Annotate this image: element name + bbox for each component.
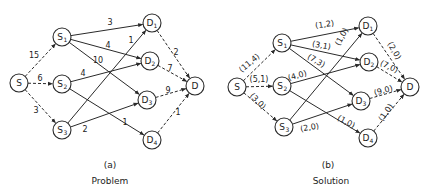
node-label: D [147,18,154,28]
edge-s-s1 [25,44,55,76]
node-label: D [363,133,370,143]
problem-caption: Problem [92,176,129,186]
edge-label-s2-d2: 4 [80,69,85,78]
problem-edge-labels: 1563341041122791 [29,18,181,134]
solution-panel: (11,4)(5,1)(3,0)(1,2)(3,1)(7,3)(4,0)(1,0… [228,17,419,186]
edge-s-s3 [25,90,56,123]
node-s2: S2 [273,77,291,95]
edge-label-s3-d3: 2 [82,125,87,134]
edge-label-s1-d1: 3 [107,18,112,27]
node-label: S [277,81,283,91]
edge-label-d3-d: 9 [165,86,170,95]
node-subscript: 4 [370,137,374,144]
edge-label-d2-d: (7,0) [379,59,400,75]
node-label: D [145,56,152,66]
edge-label-s-s1: 15 [29,51,39,60]
edge-label-d3-d: (9,0) [373,84,394,98]
node-subscript: 3 [149,99,153,106]
node-label: D [363,21,370,31]
node-label: D [147,135,154,145]
node-label: S [57,32,63,42]
node-d2: D2 [360,53,378,71]
node-d: D [186,77,204,95]
node-d2: D2 [141,52,159,70]
edge-d4-d [158,93,189,133]
node-s2: S2 [53,75,71,93]
edge-label-s3-d1: 1 [128,36,133,45]
edge-s2-d4 [70,89,144,135]
node-d: D [401,78,419,96]
edge-label-d4-d: 1 [175,108,180,117]
edge-label-s1-d3: (7,3) [306,52,327,69]
edge-s-s2 [246,86,273,87]
node-d1: D1 [143,14,161,32]
node-subscript: 2 [64,83,68,90]
node-s3: S3 [275,118,293,136]
node-subscript: 3 [64,129,68,136]
solution-tag: (b) [322,160,335,170]
node-subscript: 2 [284,85,288,92]
edge-label-s-s3: (3,0) [248,91,268,111]
edge-d3-d [156,89,186,98]
edge-label-s3-d1: (1,0) [333,26,350,47]
edge-label-s-s2: (5,1) [250,75,269,84]
node-label: S [57,125,63,135]
edge-label-d1-d: (2,0) [386,40,403,61]
node-subscript: 3 [363,100,367,107]
edge-label-d2-d: 7 [167,64,172,73]
node-d3: D3 [352,92,370,110]
node-d1: D1 [359,17,377,35]
edge-label-d4-d: (1,0) [377,102,395,123]
node-label: D [142,95,149,105]
node-subscript: 1 [154,22,158,29]
network-flow-diagram: 1563341041122791 SS1S2S3D1D2D3D4D (a) Pr… [0,0,429,196]
node-s1: S1 [273,34,291,52]
edge-label-s2-d4: 1 [122,118,127,127]
edge-label-s-s1: (11,4) [237,52,261,74]
problem-panel: 1563341041122791 SS1S2S3D1D2D3D4D (a) Pr… [10,14,204,186]
problem-tag: (a) [104,160,117,170]
node-label: S [16,78,22,88]
node-label: D [407,82,414,92]
node-s: S [228,78,246,96]
node-subscript: 2 [152,60,156,67]
node-label: S [277,38,283,48]
edge-label-s-s2: 6 [37,74,42,83]
node-s: S [10,74,28,92]
edge-label-s-s3: 3 [33,106,38,115]
node-label: S [234,82,240,92]
node-subscript: 1 [370,25,374,32]
node-d3: D3 [138,91,156,109]
node-subscript: 4 [154,139,158,146]
node-subscript: 3 [286,126,290,133]
edge-label-s1-d3: 10 [93,56,103,65]
node-label: D [192,81,199,91]
solution-caption: Solution [313,176,350,186]
edge-label-s1-d1: (1,2) [315,19,335,31]
node-s3: S3 [53,121,71,139]
node-label: S [279,122,285,132]
edge-label-s3-d3: (2,0) [299,121,319,133]
edge-label-s2-d4: (1,0) [336,113,357,130]
node-subscript: 2 [371,61,375,68]
node-label: D [356,96,363,106]
edge-s3-d3 [70,103,138,127]
node-s1: S1 [53,28,71,46]
edge-label-d1-d: 2 [173,48,178,57]
node-d4: D4 [359,129,377,147]
edge-label-s2-d2: (4,0) [287,69,308,83]
node-d4: D4 [143,131,161,149]
edge-label-s1-d2: 4 [105,41,110,50]
edge-s-s2 [28,83,53,84]
node-subscript: 1 [64,36,68,43]
node-label: D [364,57,371,67]
node-label: S [57,79,63,89]
node-subscript: 1 [284,42,288,49]
